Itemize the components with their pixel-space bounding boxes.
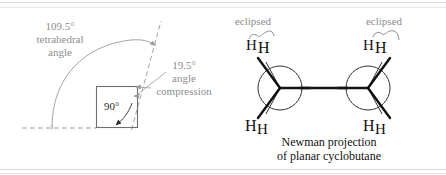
angle-compression-line3: compression xyxy=(148,85,220,98)
tetrahedral-angle-value: 109.5° xyxy=(28,20,92,33)
h-label-back-left-top: H xyxy=(246,37,257,54)
eclipsed-label-left: eclipsed xyxy=(231,15,275,28)
figure-caption: Newman projection of planar cyclobutane xyxy=(264,135,394,163)
h-label-back-right-top: H xyxy=(363,37,374,54)
h-label-front-right-top: H xyxy=(375,39,387,57)
square-angle-label: 90° xyxy=(104,100,119,112)
h-label-front-right-bottom: H xyxy=(363,117,375,135)
tetrahedral-angle-line3: angle xyxy=(28,46,92,59)
angle-compression-line2: angle xyxy=(148,72,220,85)
tetrahedral-angle-label: 109.5° tetrahedral angle xyxy=(28,20,92,59)
tetrahedral-angle-line2: tetrahedral xyxy=(28,33,92,46)
figure-caption-line1: Newman projection xyxy=(264,135,394,149)
angle-compression-value: 19.5° xyxy=(148,59,220,72)
angle-compression-label: 19.5° angle compression xyxy=(148,59,220,98)
figure-caption-line2: of planar cyclobutane xyxy=(264,149,394,163)
square-angle-arrowhead xyxy=(116,120,122,126)
h-label-front-left-top: H xyxy=(258,39,270,57)
h-label-front-left-bottom: H xyxy=(245,117,257,135)
figure-root: 109.5° tetrahedral angle 19.5° angle com… xyxy=(0,0,446,175)
eclipsed-label-right: eclipsed xyxy=(362,15,406,28)
square-angle-arrow-curve xyxy=(118,103,133,124)
